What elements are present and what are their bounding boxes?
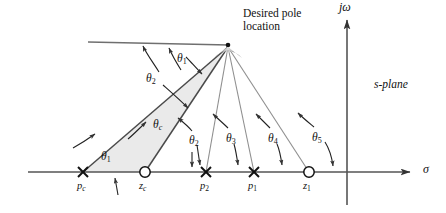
leader-theta-3-down	[234, 144, 238, 165]
angle-label-theta-5: θ5	[312, 131, 322, 146]
real-axis-label: σ	[423, 163, 429, 176]
diagram-canvas	[0, 0, 446, 213]
leader-theta-2-lower-up	[178, 118, 192, 131]
desired-pole-label-line2: location	[243, 20, 301, 33]
marker-label-p1: p1	[248, 180, 257, 193]
s-plane-label-text: s-plane	[374, 78, 408, 90]
angle-label-theta-2-lower: θ2	[189, 134, 199, 149]
s-plane-label: s-plane	[374, 78, 408, 91]
leader-theta-5-down	[325, 142, 333, 166]
horizontal-reference-line	[88, 42, 229, 45]
angle-label-theta-c: θc	[153, 118, 162, 133]
leader-theta-1-top-right	[186, 57, 202, 74]
marker-label-pc: pc	[77, 180, 86, 193]
vector-z1-to-pole	[228, 47, 309, 172]
leader-theta-4-down	[277, 144, 282, 165]
angle-label-theta-4: θ4	[268, 132, 278, 147]
zero-marker-z1	[304, 167, 314, 177]
angle-label-theta-2-upper: θ2	[146, 72, 156, 87]
imaginary-axis-label: jω	[339, 1, 351, 14]
s-plane-root-locus-figure: Desired pole location s-plane jω σ θ1 θ2…	[0, 0, 446, 213]
leader-axis-arrow-zc	[115, 178, 118, 195]
zero-marker-zc	[140, 167, 150, 177]
vector-p1-to-pole	[228, 47, 254, 172]
leader-theta-4-up	[256, 114, 270, 128]
angle-label-theta-1-bottom: θ1	[101, 150, 111, 165]
desired-pole-label-line1: Desired pole	[243, 7, 301, 20]
leader-theta-5-up	[298, 113, 314, 127]
leader-theta-2-upper	[143, 46, 159, 72]
marker-label-zc: zc	[139, 180, 146, 193]
marker-label-p2: p2	[200, 180, 209, 193]
leader-theta-c-right	[73, 134, 95, 148]
desired-pole-label: Desired pole location	[243, 7, 301, 33]
angle-label-theta-1-top: θ1	[177, 52, 187, 67]
angle-label-theta-3: θ3	[226, 132, 236, 147]
desired-pole-point	[226, 43, 231, 48]
marker-label-z1: z1	[303, 180, 311, 193]
